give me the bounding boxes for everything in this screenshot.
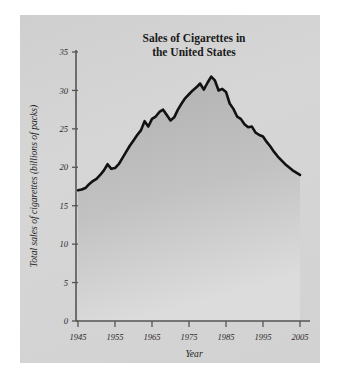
- y-tick-group: 05101520253035: [58, 47, 78, 326]
- y-tick-label: 10: [59, 239, 68, 249]
- y-tick-label: 5: [64, 278, 69, 288]
- area-fill: [78, 77, 300, 321]
- y-tick-label: 25: [59, 124, 68, 134]
- x-tick-label: 1945: [69, 332, 87, 342]
- x-tick-label: 1975: [180, 332, 198, 342]
- y-axis-title: Total sales of cigarettes (billions of p…: [28, 105, 40, 267]
- y-tick-label: 30: [58, 86, 68, 96]
- y-tick-label: 15: [59, 201, 68, 211]
- chart-title-line2: the United States: [152, 46, 236, 58]
- x-tick-group: 1945195519651975198519952005: [69, 321, 309, 342]
- x-tick-label: 1965: [143, 332, 161, 342]
- x-tick-label: 1995: [254, 332, 272, 342]
- y-tick-label: 35: [58, 47, 68, 57]
- chart-title-line1: Sales of Cigarettes in: [143, 32, 247, 45]
- y-tick-label: 0: [64, 316, 69, 326]
- x-axis-title: Year: [185, 348, 203, 359]
- cigarette-sales-area-chart: 05101520253035 1945195519651975198519952…: [0, 0, 339, 380]
- y-tick-label: 20: [59, 162, 68, 172]
- x-tick-label: 1955: [106, 332, 124, 342]
- x-tick-label: 2005: [291, 332, 309, 342]
- x-tick-label: 1985: [217, 332, 235, 342]
